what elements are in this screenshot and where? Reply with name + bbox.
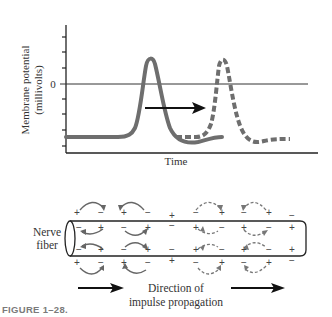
dashed-action-potential-curve [176,60,290,142]
y-axis-label-line1: Membrane potential [19,46,31,135]
svg-text:−: − [145,257,151,268]
svg-text:−: − [219,244,225,255]
figure-canvas: 0 Membrane potential (millivolts) Time N… [0,0,332,317]
svg-text:−: − [266,222,272,233]
svg-text:+: + [266,257,272,268]
svg-text:−: − [98,207,104,218]
direction-label-line2: impulse propagation [129,296,223,309]
svg-text:+: + [145,222,151,233]
svg-text:−: − [121,222,127,233]
svg-text:−: − [98,257,104,268]
svg-text:+: + [98,244,104,255]
svg-text:+: + [241,244,247,255]
svg-text:−: − [266,244,272,255]
svg-text:−: − [76,222,82,233]
svg-text:+: + [169,255,175,266]
nerve-fiber-label-line1: Nerve [33,226,61,238]
svg-text:−: − [289,210,295,221]
dashed-current-loops [196,202,268,274]
direction-label-line1: Direction of [148,282,204,294]
svg-text:+: + [219,207,225,218]
charge-signs: +− +− + −+ −+ − −+ −+ − +− +− + −+ −+ − … [74,207,295,268]
fiber-cross-section [65,221,75,256]
fiber-end-cap [300,221,306,256]
svg-text:−: − [193,207,199,218]
svg-text:−: − [219,222,225,233]
svg-text:+: + [219,257,225,268]
y-axis-label-line2: (millivolts) [32,65,45,115]
svg-text:+: + [121,207,127,218]
svg-text:+: + [289,244,295,255]
svg-text:−: − [169,220,175,231]
solid-current-loops [80,202,148,274]
membrane-potential-graph: 0 Membrane potential (millivolts) Time [19,25,318,167]
svg-text:+: + [121,257,127,268]
svg-text:−: − [169,244,175,255]
svg-text:+: + [193,222,199,233]
svg-text:−: − [193,257,199,268]
svg-text:−: − [145,207,151,218]
nerve-fiber-label-line2: fiber [36,239,58,251]
solid-action-potential-curve [66,59,222,143]
svg-text:+: + [289,222,295,233]
svg-text:+: + [193,244,199,255]
svg-text:+: + [74,257,80,268]
svg-text:+: + [145,244,151,255]
svg-text:+: + [74,207,80,218]
svg-text:−: − [241,257,247,268]
svg-text:+: + [98,222,104,233]
svg-text:+: + [241,222,247,233]
svg-text:+: + [266,207,272,218]
svg-text:−: − [289,255,295,266]
svg-text:−: − [121,244,127,255]
svg-text:−: − [76,244,82,255]
x-axis-label: Time [165,155,188,167]
nerve-fiber-diagram: Nerve fiber [33,202,306,309]
zero-tick-label: 0 [50,78,56,90]
figure-caption: FIGURE 1–28. [2,304,68,315]
svg-text:−: − [241,207,247,218]
